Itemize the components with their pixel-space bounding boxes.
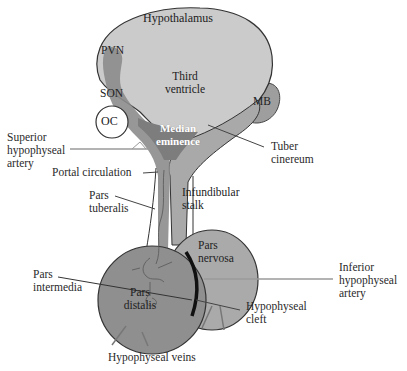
label-mb: MB (253, 95, 271, 108)
callout-inferior-line3: artery (339, 287, 397, 300)
label-pvn: PVN (101, 44, 124, 57)
label-pars-distalis: Pars distalis (118, 286, 162, 312)
callout-tuber-line1: Tuber (271, 140, 314, 153)
callout-superior-line1: Superior (7, 131, 65, 144)
callout-tuber-cinereum: Tuber cinereum (271, 140, 314, 166)
callout-cleft-line1: Hypophyseal (246, 300, 307, 313)
stalk-outline (146, 168, 156, 252)
label-third-ventricle-line2: ventricle (160, 83, 210, 96)
label-hypothalamus: Hypothalamus (143, 12, 213, 25)
label-third-ventricle-line1: Third (160, 70, 210, 83)
callout-cleft-line2: cleft (246, 313, 307, 326)
callout-superior-hypophyseal-artery: Superior hypophyseal artery (7, 131, 65, 170)
callout-pars-intermedia-line2: intermedia (33, 281, 82, 294)
label-son: SON (100, 87, 123, 100)
callout-pars-tuberalis-line1: Pars (89, 189, 129, 202)
label-pars-distalis-line2: distalis (118, 299, 162, 312)
callout-inferior-line1: Inferior (339, 261, 397, 274)
label-pars-distalis-line1: Pars (118, 286, 162, 299)
callout-portal-circulation: Portal circulation (52, 166, 132, 179)
label-pars-nervosa: Pars nervosa (198, 239, 234, 265)
label-median-eminence: Median eminence (148, 122, 208, 148)
callout-hypophyseal-veins: Hypophyseal veins (108, 351, 196, 364)
label-median-eminence-line1: Median (148, 122, 208, 135)
callout-hypophyseal-cleft: Hypophyseal cleft (246, 300, 307, 326)
callout-inferior-line2: hypophyseal (339, 274, 397, 287)
callout-tuber-line2: cinereum (271, 153, 314, 166)
callout-pars-tuberalis: Pars tuberalis (89, 189, 129, 215)
callout-superior-line2: hypophyseal (7, 144, 65, 157)
label-third-ventricle: Third ventricle (160, 70, 210, 96)
label-oc: OC (101, 115, 118, 128)
callout-pars-intermedia-line1: Pars (33, 268, 82, 281)
label-pars-nervosa-line2: nervosa (198, 252, 234, 265)
pituitary-diagram: Hypothalamus PVN Third ventricle SON OC … (0, 0, 407, 371)
label-infundibular-stalk-line1: Infundibular (182, 186, 239, 199)
label-infundibular-stalk-line2: stalk (182, 199, 239, 212)
callout-pars-intermedia: Pars intermedia (33, 268, 82, 294)
callout-pars-tuberalis-line2: tuberalis (89, 202, 129, 215)
callout-inferior-hypophyseal-artery: Inferior hypophyseal artery (339, 261, 397, 300)
label-infundibular-stalk: Infundibular stalk (182, 186, 239, 212)
label-pars-nervosa-line1: Pars (198, 239, 234, 252)
label-median-eminence-line2: eminence (148, 135, 208, 148)
